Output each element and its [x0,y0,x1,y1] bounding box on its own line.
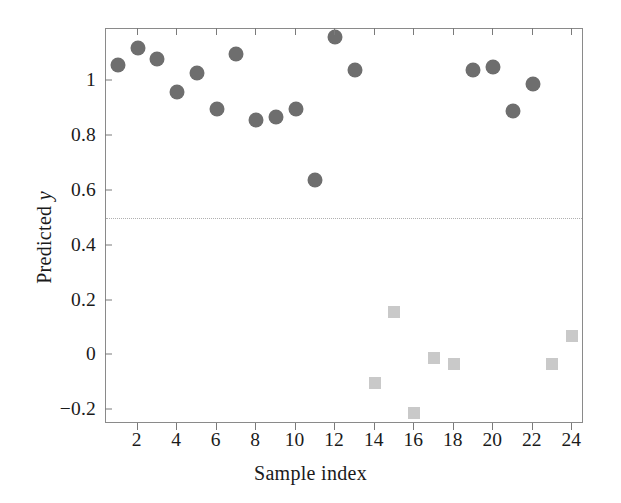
y-axis-tick-mark [105,189,112,190]
y-axis-title-variable: y [33,191,55,200]
y-axis-title: Predicted y [33,88,56,388]
data-point-class-negative [408,407,420,419]
data-point-class-positive [347,63,362,78]
x-axis-tick-label: 10 [285,430,305,450]
x-axis-tick-mark-top [453,28,454,35]
x-axis-tick-label: 14 [364,430,384,450]
plot-canvas [106,29,582,422]
data-point-class-positive [505,104,520,119]
y-axis-tick-label: 1 [86,70,96,90]
y-axis-tick-label: 0.8 [71,125,96,145]
x-axis-tick-mark-top [255,28,256,35]
x-axis-tick-label: 24 [561,430,581,450]
y-axis-tick-label: 0 [86,345,96,365]
data-point-class-positive [189,65,204,80]
x-axis-tick-mark-top [295,28,296,35]
y-axis-tick-mark [105,244,112,245]
y-axis-tick-label: −0.2 [60,400,96,420]
y-axis-tick-mark [105,134,112,135]
x-axis-tick-mark-top [334,28,335,35]
y-axis-tick-label: 0.6 [71,180,96,200]
x-axis-tick-label: 6 [211,430,221,450]
data-point-class-positive [268,109,283,124]
threshold-line [106,218,582,219]
x-axis-tick-label: 12 [324,430,344,450]
x-axis-tick-label: 2 [132,430,142,450]
x-axis-tick-mark-top [492,28,493,35]
data-point-class-negative [428,352,440,364]
x-axis-tick-label: 8 [250,430,260,450]
x-axis-tick-mark-top [571,28,572,35]
data-point-class-positive [150,52,165,67]
y-axis-title-prefix: Predicted [33,200,55,284]
x-axis-tick-mark-top [532,28,533,35]
data-point-class-positive [525,76,540,91]
plot-area [105,28,583,423]
y-axis-tick-label: 0.4 [71,235,96,255]
y-axis-tick-mark [105,299,112,300]
x-axis-tick-mark-top [374,28,375,35]
data-point-class-positive [288,101,303,116]
x-axis-tick-mark-top [216,28,217,35]
x-axis-tick-label: 18 [443,430,463,450]
x-axis-tick-mark-top [413,28,414,35]
x-axis-tick-mark-top [176,28,177,35]
y-axis-tick-mark [105,409,112,410]
y-axis-tick-mark [105,354,112,355]
data-point-class-positive [486,60,501,75]
data-point-class-positive [209,101,224,116]
data-point-class-positive [229,46,244,61]
data-point-class-positive [466,63,481,78]
data-point-class-positive [328,30,343,45]
data-point-class-negative [448,358,460,370]
x-axis-title: Sample index [0,462,621,485]
data-point-class-negative [566,330,578,342]
data-point-class-positive [130,41,145,56]
x-axis-tick-mark-top [137,28,138,35]
x-axis-tick-label: 22 [522,430,542,450]
data-point-class-negative [388,306,400,318]
data-point-class-negative [546,358,558,370]
x-axis-tick-label: 16 [403,430,423,450]
y-axis-tick-label: 0.2 [71,290,96,310]
x-axis-tick-label: 20 [482,430,502,450]
x-axis-tick-label: 4 [171,430,181,450]
data-point-class-negative [369,377,381,389]
scatter-plot-figure: −0.200.20.40.60.81 Predicted y Sample in… [0,0,621,503]
y-axis-tick-mark [105,80,112,81]
data-point-class-positive [110,57,125,72]
data-point-class-positive [249,112,264,127]
data-point-class-positive [170,85,185,100]
data-point-class-positive [308,172,323,187]
